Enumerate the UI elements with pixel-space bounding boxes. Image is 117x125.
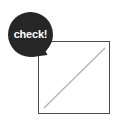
illustration-canvas: check! bbox=[0, 0, 117, 125]
speech-bubble-label: check! bbox=[8, 12, 53, 57]
speech-bubble: check! bbox=[8, 12, 53, 57]
